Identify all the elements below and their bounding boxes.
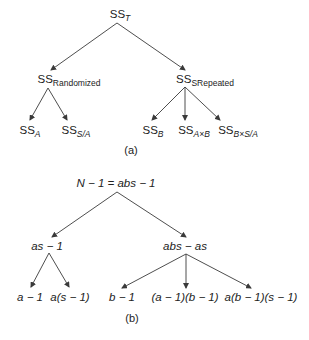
- node-ss-total: SST: [110, 8, 131, 21]
- caption-a: (a): [124, 144, 137, 156]
- edge-a-root-repeated: [117, 23, 185, 70]
- node-df-bxsa: a(b − 1)(s − 1): [225, 291, 298, 304]
- node-df-s-a: a(s − 1): [50, 291, 89, 304]
- edge-a-randomized-a: [30, 88, 48, 120]
- edge-b-root-left: [52, 192, 117, 237]
- node-df-axb: (a − 1)(b − 1): [151, 291, 218, 304]
- tree-edges: [0, 0, 309, 340]
- caption-b: (b): [125, 312, 138, 324]
- node-ss-randomized: SSRandomized: [37, 73, 100, 86]
- node-ss-b: SSB: [142, 124, 163, 137]
- edge-a-randomized-sa: [48, 88, 67, 120]
- node-ss-axb: SSA×B: [178, 124, 210, 137]
- node-df-b: b − 1: [109, 291, 135, 304]
- edge-b-root-right: [117, 192, 186, 237]
- node-ss-repeated: SSSRepeated: [176, 73, 234, 86]
- node-ss-bxsa: SSB×S/A: [218, 124, 258, 137]
- edge-a-repeated-b: [152, 87, 185, 120]
- node-within-df: abs − as: [163, 240, 207, 253]
- node-between-df: as − 1: [31, 240, 63, 253]
- edge-b-right-b1: [122, 254, 186, 288]
- edge-a-root-randomized: [51, 23, 117, 70]
- node-ss-s-a: SSS/A: [61, 124, 90, 137]
- node-df-a: a − 1: [17, 291, 43, 304]
- edge-a-repeated-bxsa: [185, 87, 220, 120]
- node-total-df: N − 1 = abs − 1: [77, 177, 156, 190]
- edge-b-left-a1: [31, 253, 49, 287]
- edge-b-left-as1: [49, 253, 69, 287]
- edge-b-right-ab1s1: [186, 254, 251, 288]
- node-ss-a: SSA: [19, 124, 40, 137]
